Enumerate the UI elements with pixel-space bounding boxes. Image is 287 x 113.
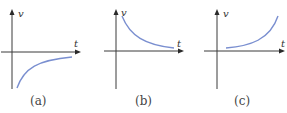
v-arrow-icon (114, 9, 119, 15)
t-label-c: t (281, 38, 286, 49)
caption-a: (a) (30, 94, 47, 108)
caption-b: (b) (135, 94, 152, 108)
panel-b: v t (104, 7, 184, 89)
curve-a (17, 57, 72, 88)
t-arrow-icon (75, 50, 81, 55)
curve-c (226, 16, 278, 48)
v-arrow-icon (10, 9, 15, 15)
v-label-b: v (121, 7, 127, 18)
v-arrow-icon (215, 9, 220, 15)
t-label-b: t (177, 38, 182, 49)
t-label-a: t (74, 38, 79, 49)
panel-a: v t (1, 8, 81, 89)
curve-b (122, 16, 174, 48)
t-arrow-icon (178, 49, 184, 54)
panel-c: v t (204, 8, 286, 89)
v-label-a: v (18, 8, 24, 19)
v-label-c: v (223, 8, 229, 19)
t-arrow-icon (279, 49, 285, 54)
caption-c: (c) (234, 94, 250, 108)
